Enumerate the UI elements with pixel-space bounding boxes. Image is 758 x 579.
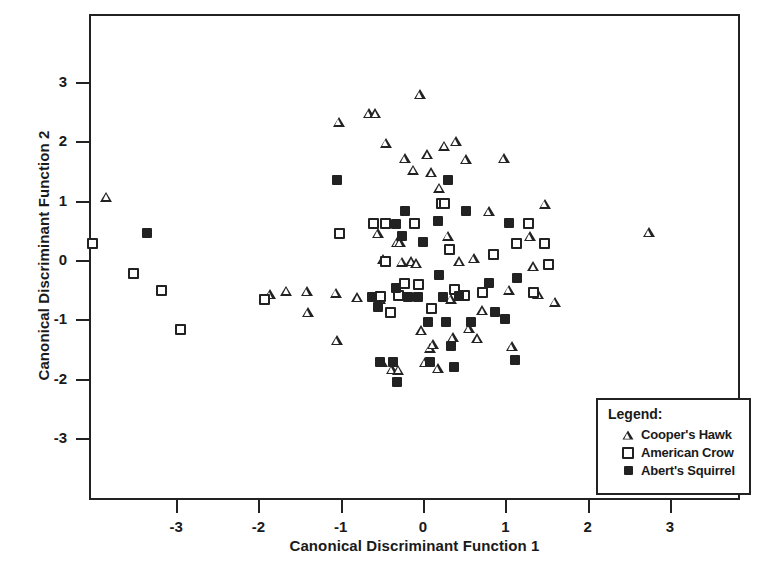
x-tick-2	[588, 500, 590, 513]
open-square-marker-icon	[175, 324, 186, 335]
open-square-marker-icon	[368, 218, 379, 229]
data-point	[400, 206, 410, 216]
triangle-marker-icon	[453, 256, 465, 266]
data-point	[175, 324, 186, 335]
data-point	[446, 341, 456, 351]
data-point	[450, 136, 462, 146]
triangle-marker-icon	[483, 206, 495, 216]
filled-square-marker-icon	[441, 317, 451, 327]
filled-square-marker-icon	[438, 292, 448, 302]
filled-square-marker-icon	[375, 357, 385, 367]
data-point	[380, 138, 392, 148]
triangle-marker-icon	[407, 165, 419, 175]
triangle-marker-icon	[331, 335, 343, 345]
data-point	[414, 89, 426, 99]
data-point	[380, 218, 391, 229]
triangle-marker-icon	[622, 430, 633, 439]
filled-square-marker-icon	[392, 377, 402, 387]
data-point	[333, 117, 345, 127]
triangle-marker-icon	[372, 228, 384, 238]
y-tick-label-1: 1	[27, 193, 67, 208]
legend-item-american-crow: American Crow	[622, 444, 741, 461]
filled-square-marker-icon	[446, 341, 456, 351]
legend-label: Cooper's Hawk	[641, 427, 732, 442]
open-square-marker-icon	[523, 218, 534, 229]
data-point	[476, 305, 488, 315]
triangle-marker-icon	[414, 89, 426, 99]
triangle-marker-icon	[503, 285, 515, 295]
triangle-marker-icon	[100, 192, 112, 202]
open-square-marker-icon	[399, 278, 410, 289]
data-point	[372, 228, 384, 238]
triangle-marker-icon	[442, 231, 454, 241]
data-point	[524, 231, 536, 241]
data-point	[434, 270, 444, 280]
y-tick-3	[76, 82, 89, 84]
filled-square-marker-icon	[388, 357, 398, 367]
data-point	[510, 355, 520, 365]
data-point	[334, 228, 345, 239]
data-point	[477, 287, 488, 298]
open-square-marker-icon	[477, 287, 488, 298]
filled-square-marker-icon	[434, 270, 444, 280]
open-square-marker-icon	[385, 307, 396, 318]
chart-container: Canonical Discriminant Function 2 Canoni…	[0, 0, 758, 579]
triangle-marker-icon	[506, 341, 518, 351]
filled-square-marker-icon	[466, 317, 476, 327]
data-point	[504, 218, 514, 228]
data-point	[407, 165, 419, 175]
data-point	[391, 283, 401, 293]
data-point	[332, 175, 342, 185]
data-point	[511, 238, 522, 249]
data-point	[392, 377, 402, 387]
filled-square-marker-icon	[510, 355, 520, 365]
data-point	[438, 141, 450, 151]
y-tick--3	[76, 438, 89, 440]
data-point	[100, 192, 112, 202]
filled-square-marker-icon	[624, 466, 633, 475]
filled-square-marker-icon	[142, 228, 152, 238]
legend-key	[622, 466, 634, 475]
data-point	[449, 362, 459, 372]
filled-square-marker-icon	[391, 283, 401, 293]
open-square-marker-icon	[511, 238, 522, 249]
data-point	[512, 273, 522, 283]
data-point	[488, 249, 499, 260]
data-point	[453, 256, 465, 266]
filled-square-marker-icon	[425, 357, 435, 367]
x-tick-3	[670, 500, 672, 513]
triangle-marker-icon	[280, 286, 292, 296]
triangle-marker-icon	[380, 138, 392, 148]
open-square-marker-icon	[334, 228, 345, 239]
y-tick-label-0: 0	[27, 252, 67, 267]
filled-square-marker-icon	[332, 175, 342, 185]
open-square-marker-icon	[488, 249, 499, 260]
data-point	[142, 228, 152, 238]
data-point	[484, 278, 494, 288]
open-square-marker-icon	[128, 268, 139, 279]
filled-square-marker-icon	[443, 175, 453, 185]
filled-square-marker-icon	[391, 219, 401, 229]
filled-square-marker-icon	[423, 317, 433, 327]
open-square-marker-icon	[413, 279, 424, 290]
legend-box: Legend: Cooper's HawkAmerican CrowAbert'…	[596, 398, 751, 495]
open-square-marker-icon	[543, 259, 554, 270]
data-point	[643, 227, 655, 237]
triangle-marker-icon	[539, 199, 551, 209]
filled-square-marker-icon	[461, 206, 471, 216]
triangle-marker-icon	[498, 153, 510, 163]
x-axis-title: Canonical Discriminant Function 1	[89, 537, 740, 554]
triangle-marker-icon	[450, 136, 462, 146]
filled-square-marker-icon	[449, 362, 459, 372]
data-point	[369, 108, 381, 118]
triangle-marker-icon	[549, 297, 561, 307]
x-tick-0	[423, 500, 425, 513]
triangle-marker-icon	[468, 253, 480, 263]
data-point	[399, 153, 411, 163]
data-point	[280, 286, 292, 296]
data-point	[156, 285, 167, 296]
open-square-marker-icon	[444, 244, 455, 255]
data-point	[527, 261, 539, 271]
data-point	[498, 153, 510, 163]
data-point	[427, 339, 439, 349]
